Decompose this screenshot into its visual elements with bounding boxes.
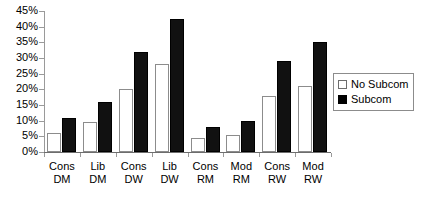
x-category-label-line2: DM <box>80 173 116 186</box>
x-tick-mark <box>223 153 224 157</box>
x-category-label-line1: Lib <box>80 160 116 173</box>
x-category-label: ConsRM <box>187 160 223 186</box>
x-category-label-line1: Mod <box>295 160 331 173</box>
bar-group <box>44 11 80 152</box>
bar-group <box>295 11 331 152</box>
y-tick-mark <box>39 11 44 12</box>
x-category-label-line2: RM <box>187 173 223 186</box>
bar-subcom <box>241 121 255 152</box>
x-tick-mark <box>116 153 117 157</box>
bar-subcom <box>313 42 327 152</box>
x-tick-mark <box>331 153 332 157</box>
legend-item-no-subcom: No Subcom <box>338 77 408 92</box>
chart-legend: No Subcom Subcom <box>333 73 414 111</box>
bar-no-subcom <box>262 96 276 152</box>
x-tick-mark <box>80 153 81 157</box>
x-category-label-line2: DW <box>116 173 152 186</box>
bar-no-subcom <box>83 122 97 152</box>
x-category-label-line1: Cons <box>187 160 223 173</box>
x-category-label-line1: Cons <box>259 160 295 173</box>
bar-group <box>223 11 259 152</box>
legend-swatch-empty-square-icon <box>338 80 347 89</box>
bar-group <box>80 11 116 152</box>
bar-subcom <box>98 102 112 152</box>
bar-no-subcom <box>191 138 205 152</box>
y-tick-label: 45% <box>16 5 38 16</box>
y-tick-label: 15% <box>16 99 38 110</box>
y-tick-label: 25% <box>16 68 38 79</box>
y-axis: 45%40%35%30%25%20%15%10%5%0% <box>0 0 42 201</box>
bar-group <box>188 11 224 152</box>
x-category-label-line1: Mod <box>223 160 259 173</box>
bar-group <box>152 11 188 152</box>
bar-group <box>116 11 152 152</box>
y-tick-mark <box>39 42 44 43</box>
y-tick-mark <box>39 27 44 28</box>
legend-item-subcom: Subcom <box>338 92 408 107</box>
x-category-label-line2: DM <box>44 173 80 186</box>
x-category-label: ConsRW <box>259 160 295 186</box>
x-category-label-line2: DW <box>152 173 188 186</box>
bar-subcom <box>277 61 291 152</box>
x-tick-mark <box>44 153 45 157</box>
bar-no-subcom <box>155 64 169 152</box>
x-category-label-line1: Cons <box>44 160 80 173</box>
bar-subcom <box>62 118 76 152</box>
y-tick-label: 10% <box>16 115 38 126</box>
x-tick-mark <box>152 153 153 157</box>
legend-label-no-subcom: No Subcom <box>351 79 408 90</box>
y-tick-mark <box>39 74 44 75</box>
x-category-label: ModRM <box>223 160 259 186</box>
x-category-label: LibDW <box>152 160 188 186</box>
bar-subcom <box>170 19 184 152</box>
bar-no-subcom <box>298 86 312 152</box>
x-tick-mark <box>259 153 260 157</box>
x-tick-mark <box>295 153 296 157</box>
y-tick-mark <box>39 58 44 59</box>
y-tick-label: 5% <box>22 130 38 141</box>
x-category-label-line1: Lib <box>152 160 188 173</box>
bar-no-subcom <box>226 135 240 152</box>
legend-label-subcom: Subcom <box>351 94 391 105</box>
y-tick-mark <box>39 105 44 106</box>
x-category-label: LibDM <box>80 160 116 186</box>
legend-swatch-filled-square-icon <box>338 95 347 104</box>
bar-no-subcom <box>47 133 61 152</box>
x-category-label-line2: RM <box>223 173 259 186</box>
x-category-label-line1: Cons <box>116 160 152 173</box>
bar-chart: 45%40%35%30%25%20%15%10%5%0% No Subcom S… <box>0 0 426 201</box>
y-tick-label: 0% <box>22 146 38 157</box>
plot-area <box>44 11 331 152</box>
x-category-label: ModRW <box>295 160 331 186</box>
x-category-label-line2: RW <box>295 173 331 186</box>
x-category-label: ConsDW <box>116 160 152 186</box>
y-tick-mark <box>39 121 44 122</box>
bar-no-subcom <box>119 89 133 152</box>
x-category-label-line2: RW <box>259 173 295 186</box>
y-tick-label: 35% <box>16 36 38 47</box>
bar-group <box>259 11 295 152</box>
y-tick-label: 20% <box>16 83 38 94</box>
y-tick-label: 40% <box>16 21 38 32</box>
x-tick-mark <box>188 153 189 157</box>
x-category-label: ConsDM <box>44 160 80 186</box>
bar-subcom <box>134 52 148 152</box>
y-tick-label: 30% <box>16 52 38 63</box>
y-tick-mark <box>39 89 44 90</box>
bar-subcom <box>206 127 220 152</box>
y-tick-mark <box>39 136 44 137</box>
